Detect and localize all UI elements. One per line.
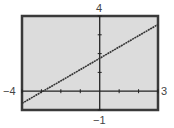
ymax-label: 4 [96, 3, 102, 14]
calculator-graph: 4 −1 −4 3 [0, 0, 174, 128]
xmax-label: 3 [161, 86, 167, 97]
graph-canvas [0, 0, 174, 128]
xmin-label: −4 [3, 86, 16, 97]
plot-frame [22, 16, 158, 110]
ymin-label: −1 [93, 115, 106, 126]
